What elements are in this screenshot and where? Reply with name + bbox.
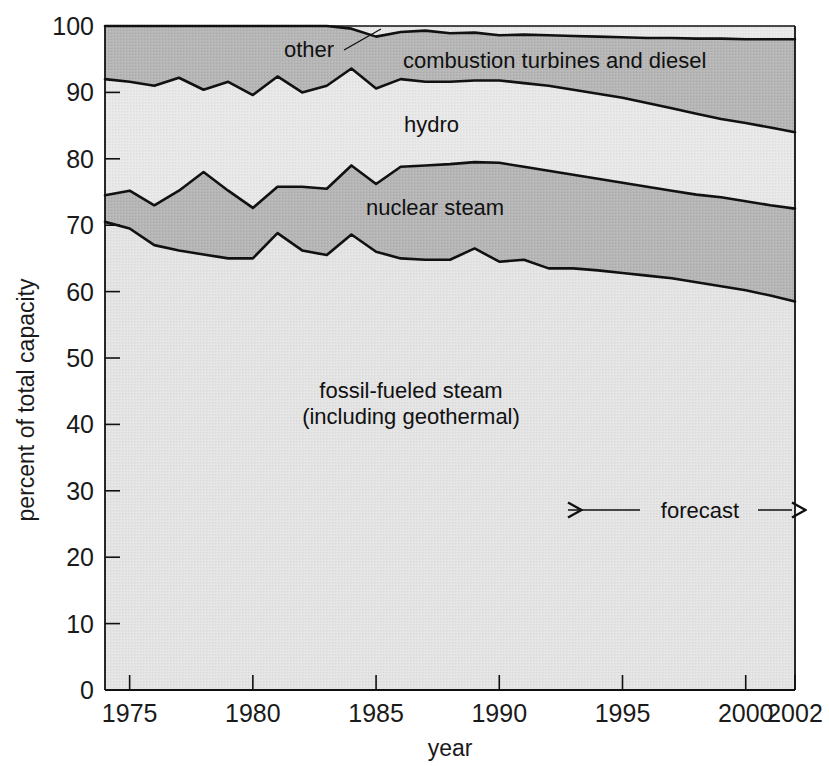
chart-figure: 0102030405060708090100 19751980198519901…	[0, 0, 829, 766]
area-chart: 0102030405060708090100 19751980198519901…	[0, 0, 829, 766]
x-tick-label: 1975	[102, 699, 158, 727]
series-label-other: other	[284, 37, 334, 62]
y-tick-label: 0	[80, 676, 94, 704]
y-tick-label: 50	[66, 344, 94, 372]
series-label-nuclear: nuclear steam	[366, 195, 504, 220]
y-tick-label: 10	[66, 610, 94, 638]
y-tick-label: 60	[66, 278, 94, 306]
y-tick-label: 30	[66, 477, 94, 505]
y-tick-label: 40	[66, 410, 94, 438]
y-tick-label: 70	[66, 211, 94, 239]
forecast-label: forecast	[661, 498, 739, 523]
y-tick-label: 90	[66, 78, 94, 106]
y-tick-label: 80	[66, 145, 94, 173]
x-tick-label: 1980	[225, 699, 281, 727]
y-tick-label: 100	[52, 12, 94, 40]
series-label-fossil-line1: fossil-fueled steam	[319, 378, 502, 403]
x-tick-label: 1985	[348, 699, 404, 727]
y-axis-title: percent of total capacity	[13, 278, 39, 521]
series-label-hydro: hydro	[404, 112, 459, 137]
series-label-combustion: combustion turbines and diesel	[403, 48, 706, 73]
x-tick-label: 2000	[718, 699, 774, 727]
series-label-fossil-line2: (including geothermal)	[302, 404, 520, 429]
x-tick-label: 1995	[595, 699, 651, 727]
band-fossil-fueled-steam	[105, 222, 795, 690]
x-axis-title: year	[428, 735, 473, 761]
x-tick-label: 1990	[471, 699, 527, 727]
y-tick-label: 20	[66, 543, 94, 571]
x-tick-label: 2002	[767, 699, 823, 727]
